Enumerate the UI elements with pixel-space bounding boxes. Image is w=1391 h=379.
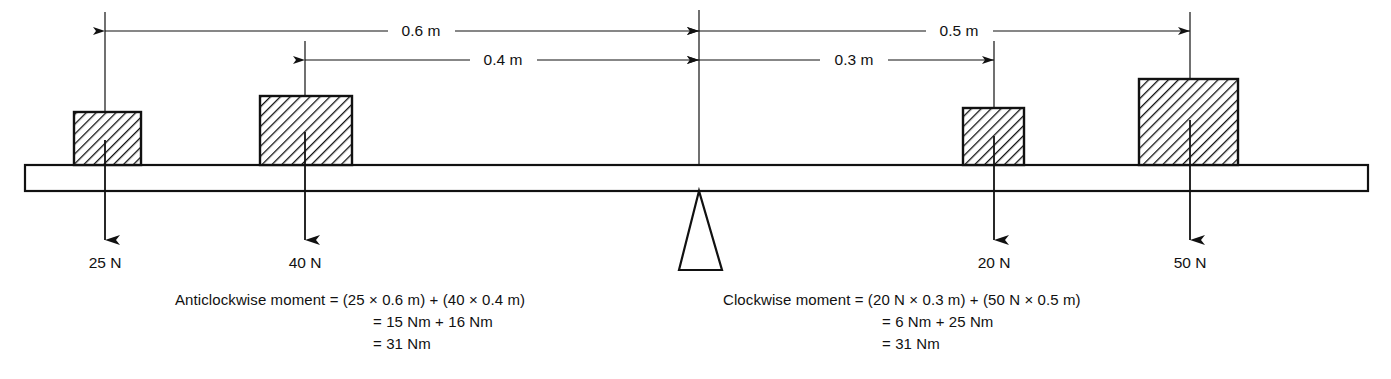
anticlockwise-line-1: Anticlockwise moment = (25 × 0.6 m) + (4… bbox=[175, 291, 525, 308]
dimension-0-5m: 0.5 m bbox=[699, 12, 1190, 79]
dimension-0-4m-label: 0.4 m bbox=[484, 51, 523, 68]
dimension-0-4m: 0.4 m bbox=[305, 41, 699, 96]
clockwise-line-3: = 31 Nm bbox=[882, 335, 940, 352]
beam-moments-figure: 0.6 m 0.4 m 0.5 m 0.3 m bbox=[0, 0, 1391, 379]
force-label-50n: 50 N bbox=[1174, 254, 1207, 271]
beam bbox=[25, 165, 1368, 191]
clockwise-line-2: = 6 Nm + 25 Nm bbox=[882, 313, 993, 330]
block-40n bbox=[260, 96, 352, 165]
force-label-25n: 25 N bbox=[89, 254, 122, 271]
dimension-0-5m-label: 0.5 m bbox=[940, 22, 979, 39]
block-50n bbox=[1139, 79, 1238, 165]
force-label-40n: 40 N bbox=[289, 254, 322, 271]
anticlockwise-line-3: = 31 Nm bbox=[373, 335, 431, 352]
dimension-0-6m-label: 0.6 m bbox=[402, 22, 441, 39]
block-25n bbox=[74, 112, 141, 165]
dimension-0-3m-label: 0.3 m bbox=[835, 51, 874, 68]
fulcrum-pivot bbox=[679, 191, 722, 270]
force-label-20n: 20 N bbox=[978, 254, 1011, 271]
anticlockwise-line-2: = 15 Nm + 16 Nm bbox=[373, 313, 493, 330]
dimension-0-3m: 0.3 m bbox=[699, 41, 994, 108]
clockwise-moment-calculation: Clockwise moment = (20 N × 0.3 m) + (50 … bbox=[723, 291, 1081, 352]
figure-canvas: 0.6 m 0.4 m 0.5 m 0.3 m bbox=[0, 0, 1391, 379]
clockwise-line-1: Clockwise moment = (20 N × 0.3 m) + (50 … bbox=[723, 291, 1081, 308]
anticlockwise-moment-calculation: Anticlockwise moment = (25 × 0.6 m) + (4… bbox=[175, 291, 525, 352]
dimension-0-6m: 0.6 m bbox=[105, 12, 699, 112]
